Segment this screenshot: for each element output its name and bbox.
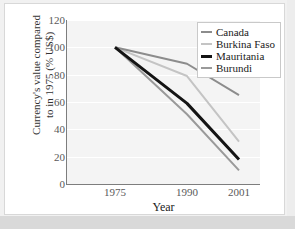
legend-item-mauritania[interactable]: Mauritania bbox=[201, 50, 275, 62]
bottom-edge-strip bbox=[0, 216, 295, 229]
legend-line-swatch bbox=[201, 31, 212, 33]
x-axis-tick-label: 1975 bbox=[90, 186, 140, 198]
right-edge-strip bbox=[287, 0, 295, 216]
x-axis-tick-label: 2001 bbox=[214, 186, 264, 198]
y-axis-tick-label: 80 bbox=[39, 70, 65, 81]
x-axis-tick-label: 1990 bbox=[162, 186, 212, 198]
chart-card: Currency's value compared to in 1975 (% … bbox=[4, 3, 285, 215]
chart-legend: CanadaBurkina FasoMauritaniaBurundi bbox=[197, 22, 281, 78]
legend-item-burundi[interactable]: Burundi bbox=[201, 62, 275, 74]
y-axis-ticks: 020406080100120 bbox=[35, 20, 65, 184]
legend-item-label: Canada bbox=[216, 26, 249, 38]
legend-item-label: Burkina Faso bbox=[216, 38, 275, 50]
y-axis-tick-label: 120 bbox=[39, 15, 65, 26]
y-axis-tick-label: 100 bbox=[39, 42, 65, 53]
x-axis-ticks: 197519902001 bbox=[67, 186, 260, 200]
legend-line-swatch bbox=[201, 67, 212, 69]
y-axis-tick-label: 20 bbox=[39, 152, 65, 163]
legend-item-canada[interactable]: Canada bbox=[201, 26, 275, 38]
legend-item-label: Burundi bbox=[216, 62, 252, 74]
legend-line-swatch bbox=[201, 43, 212, 45]
figure-container: Currency's value compared to in 1975 (% … bbox=[0, 0, 295, 229]
x-axis-title: Year bbox=[67, 200, 260, 215]
legend-item-label: Mauritania bbox=[216, 50, 264, 62]
y-axis-tick-label: 40 bbox=[39, 124, 65, 135]
legend-line-swatch bbox=[201, 55, 212, 58]
y-axis-line bbox=[66, 20, 67, 185]
y-axis-tick-label: 0 bbox=[39, 179, 65, 190]
x-axis-line bbox=[66, 184, 260, 185]
y-axis-tick-label: 60 bbox=[39, 97, 65, 108]
legend-item-burkina-faso[interactable]: Burkina Faso bbox=[201, 38, 275, 50]
